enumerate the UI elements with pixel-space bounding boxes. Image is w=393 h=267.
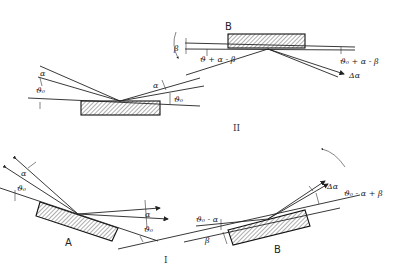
angle-marker [40,78,42,86]
label-alpha: α [145,210,151,219]
label-theta0-minus-alpha: ϑ₀ - α [196,215,219,224]
rotation-arrow-icon [322,149,345,167]
reflected-ray [120,86,204,101]
panel-i: α ϑ₀ α ϑ₀ A ϑ₀ - α β Δα ϑ₀ - α [0,149,383,265]
crystal-a-body [36,202,118,241]
label-alpha: α [21,169,27,178]
label-theta0: ϑ₀ [144,225,154,234]
label-theta0-alpha-beta: ϑ₀ + α - β [340,57,379,66]
panel-label-ii: II [233,123,241,133]
crystal-label-b: B [225,21,232,32]
panel-ii: α ϑ₀ α ϑ₀ B β ϑ + α - β ϑ₀ + α - β [28,21,379,133]
crystal-label-b: B [274,244,281,255]
label-delta-alpha: Δα [348,71,361,80]
reflected-ray [120,78,200,101]
crystal-b-i: ϑ₀ - α β Δα ϑ₀ - α + β B [118,149,383,255]
label-theta0: ϑ₀ [17,184,27,193]
crystal-ii-right: B β ϑ + α - β ϑ₀ + α - β Δα [173,21,379,80]
angle-marker [316,193,319,204]
angle-marker [28,162,36,168]
label-alpha: α [40,69,46,78]
angle-marker [223,232,227,244]
label-theta0: ϑ₀ [36,86,46,95]
label-delta-alpha: Δα [326,182,339,191]
crystal-ii-left-body [81,101,160,115]
double-crystal-diagram: α ϑ₀ α ϑ₀ B β ϑ + α - β ϑ₀ + α - β [0,0,393,267]
label-beta: β [173,44,179,53]
crystal-label-a: A [65,237,72,248]
crystal-ii-left: α ϑ₀ α ϑ₀ [28,66,204,115]
incident-ray [40,66,120,101]
reflected-ray [268,49,338,77]
incident-ray [38,77,120,101]
label-theta0-alpha-beta: ϑ₀ - α + β [344,189,383,198]
crystal-a: α ϑ₀ α ϑ₀ A [0,158,168,248]
label-alpha: α [153,81,159,90]
reflected-ray [268,49,344,74]
label-beta: β [204,236,210,245]
label-theta0: ϑ₀ [174,95,184,104]
angle-marker [140,236,143,242]
label-theta-alpha-beta: ϑ + α - β [200,55,236,64]
panel-label-i: I [164,255,168,265]
